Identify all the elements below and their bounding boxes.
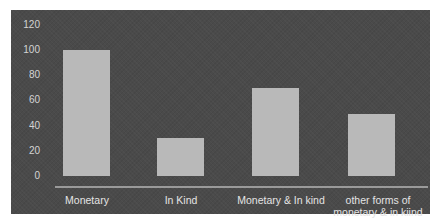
bar-2 bbox=[252, 88, 299, 176]
x-label-in-kind: In Kind bbox=[133, 194, 229, 206]
y-tick-label: 0 bbox=[11, 170, 40, 182]
y-tick-label: 120 bbox=[11, 19, 40, 31]
x-label-monetary: Monetary bbox=[39, 194, 135, 206]
x-label-other-forms: other forms of monetary & in kiind bbox=[313, 194, 440, 218]
chart-area: 020406080100120 Monetary In Kind Monetar… bbox=[11, 10, 430, 214]
y-tick-label: 20 bbox=[11, 145, 40, 157]
y-tick-label: 40 bbox=[11, 120, 40, 132]
x-label-other-forms-line1: other forms of bbox=[313, 194, 440, 206]
x-label-other-forms-line2: monetary & in kiind bbox=[313, 206, 440, 218]
bar-1 bbox=[157, 138, 204, 176]
y-tick-label: 80 bbox=[11, 69, 40, 81]
bar-0 bbox=[63, 50, 110, 176]
y-tick-label: 60 bbox=[11, 94, 40, 106]
bar-3 bbox=[348, 114, 395, 176]
y-tick-label: 100 bbox=[11, 44, 40, 56]
x-axis-line bbox=[55, 186, 428, 188]
